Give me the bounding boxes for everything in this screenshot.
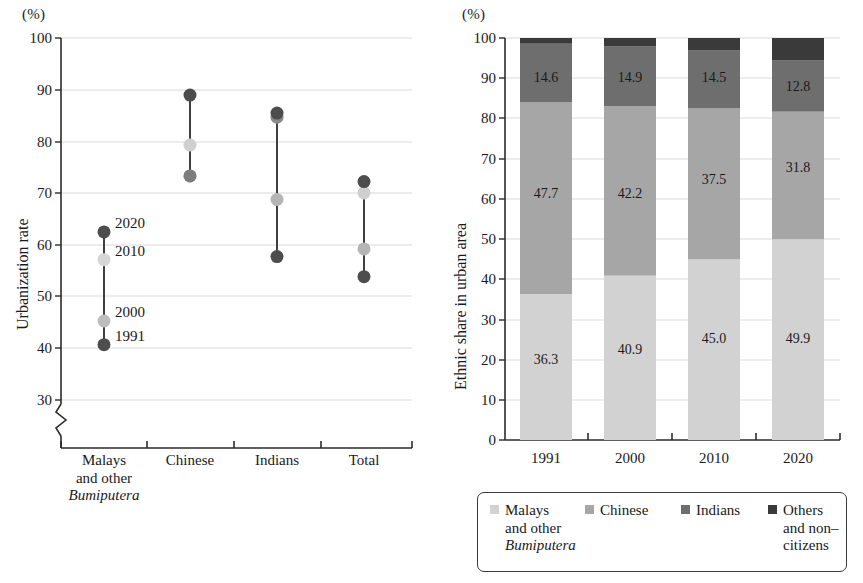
legend-item-others[interactable]: Others and non– citizens [768,502,838,555]
legend-label-others-line2: and non– [783,520,838,538]
left-y-axis [56,38,66,448]
dot-total-2020 [358,175,371,188]
legend-label-malays-line1: Malays [505,502,549,518]
left-y-tickmarks [55,38,61,400]
bar-2010-others [688,38,740,50]
legend: Malays and other Bumiputera Chinese Indi… [477,492,847,572]
right-xtick-2020: 2020 [758,450,838,468]
legend-label-malays-line2: and other [505,520,576,538]
legend-swatch-others-icon [768,505,777,514]
urbanization-rate-chart: (%) Urbanization rate 100 90 80 70 60 50… [0,0,440,583]
dot-chinese-2020 [184,89,197,102]
xtick-malays-line2: and other [44,470,164,488]
value-2020-malays: 49.9 [768,331,828,347]
right-y-tickmarks [499,38,505,440]
bar-2000 [604,38,656,440]
annotation-1991: 1991 [115,328,145,345]
annotation-2020: 2020 [115,215,145,232]
bar-2020 [772,38,824,440]
xtick-total: Total [304,452,424,470]
value-2010-chinese: 37.5 [684,172,744,188]
value-2010-indians: 14.5 [684,70,744,86]
legend-item-indians[interactable]: Indians [681,502,740,520]
xtick-malays-line3: Bumiputera [44,487,164,505]
bar-2010 [688,38,740,440]
value-1991-chinese: 47.7 [516,186,576,202]
value-2000-chinese: 42.2 [600,186,660,202]
value-2010-malays: 45.0 [684,331,744,347]
xtick-total-line1: Total [304,452,424,470]
value-2020-chinese: 31.8 [768,160,828,176]
dot-total-2010 [358,186,371,199]
dot-malays-2000 [98,315,111,328]
right-xtick-1991: 1991 [506,450,586,468]
dot-indians-2000 [271,193,284,206]
bar-2020-others [772,38,824,60]
bar-1991 [520,38,572,440]
annotation-2010: 2010 [115,243,145,260]
dot-malays-2010 [98,253,111,266]
legend-label-malays-line3: Bumiputera [505,537,576,555]
bar-2000-others [604,38,656,46]
left-x-axis [61,441,412,448]
right-xtick-2000: 2000 [590,450,670,468]
dot-indians-2020 [271,107,284,120]
legend-label-others-line3: citizens [783,537,838,555]
dot-chinese-2010 [184,139,197,152]
legend-label-others-line1: Others [783,502,823,518]
bar-2010-malays [688,259,740,440]
dot-total-1991 [358,270,371,283]
value-1991-malays: 36.3 [516,352,576,368]
value-2020-indians: 12.8 [768,79,828,95]
legend-label-chinese: Chinese [600,502,648,518]
dot-malays-1991 [98,338,111,351]
dot-chinese-2000 [184,169,197,182]
legend-label-indians: Indians [696,502,740,518]
dot-total-2000 [358,242,371,255]
value-2000-indians: 14.9 [600,70,660,86]
dot-indians-1991 [271,250,284,263]
legend-item-chinese[interactable]: Chinese [585,502,648,520]
annotation-2000: 2000 [115,304,145,321]
right-xtick-2010: 2010 [674,450,754,468]
left-gridlines [61,38,412,400]
legend-swatch-chinese-icon [585,505,594,514]
value-1991-indians: 14.6 [516,70,576,86]
value-2000-malays: 40.9 [600,342,660,358]
legend-item-malays[interactable]: Malays and other Bumiputera [490,502,576,555]
bar-1991-others [520,38,572,44]
dot-malays-2020 [98,225,111,238]
legend-swatch-malays-icon [490,505,499,514]
legend-swatch-indians-icon [681,505,690,514]
